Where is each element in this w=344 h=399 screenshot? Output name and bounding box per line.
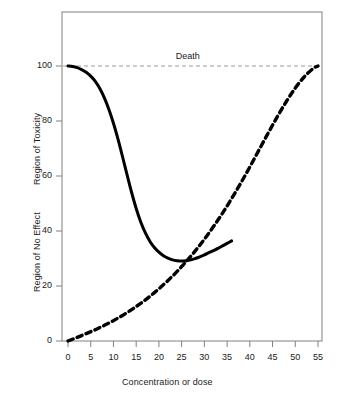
death-annotation: Death [176, 51, 200, 61]
plot-frame-rect [62, 12, 322, 341]
y-tick-label: 60 [22, 170, 52, 180]
x-axis-ticks [68, 341, 318, 347]
y-tick-label: 40 [22, 225, 52, 235]
no-effect-toxicity-curve [68, 66, 232, 261]
y-tick-label: 80 [22, 115, 52, 125]
y-tick-label: 100 [22, 60, 52, 70]
y-axis-ticks [56, 66, 62, 341]
plot-frame [62, 12, 322, 341]
y-tick-label: 20 [22, 280, 52, 290]
x-tick-label: 55 [303, 352, 333, 362]
data-series [68, 66, 318, 341]
dose-response-curve [68, 66, 318, 341]
y-tick-label: 0 [22, 335, 52, 345]
chart-figure: Region of Toxicity Region of No Effect C… [0, 0, 344, 399]
